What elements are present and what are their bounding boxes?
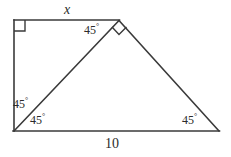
label-top-side-x: x [64, 3, 70, 17]
right-slant-side [119, 21, 219, 132]
label-angle-upper-left: 45° [13, 97, 28, 110]
angle-lower-left-value: 45 [30, 113, 42, 127]
degree-symbol-lower-left: ° [42, 112, 45, 121]
degree-symbol-apex: ° [96, 22, 99, 31]
degree-symbol-lower-right: ° [194, 112, 197, 121]
degree-symbol-upper-left: ° [25, 96, 28, 105]
square-right-angle-marker [14, 20, 25, 31]
angle-upper-left-value: 45 [13, 97, 25, 111]
diamond-right-angle-marker [112, 27, 127, 35]
label-angle-lower-right: 45° [182, 113, 197, 126]
diagram-canvas [0, 0, 231, 157]
angle-apex-value: 45 [84, 23, 96, 37]
label-angle-lower-left: 45° [30, 113, 45, 126]
angle-lower-right-value: 45 [182, 113, 194, 127]
geometry-figure: x 45° 45° 45° 45° 10 [0, 0, 231, 157]
label-angle-apex: 45° [84, 23, 99, 36]
label-base-side-10: 10 [105, 137, 119, 151]
